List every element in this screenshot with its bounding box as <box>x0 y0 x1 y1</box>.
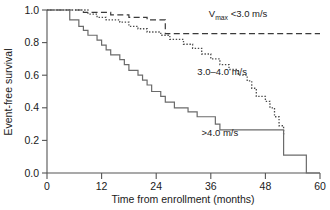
y-tick-label: 1.0 <box>24 4 39 16</box>
series-label-1: 3.0–4.0 m/s <box>197 66 247 77</box>
x-tick-label: 36 <box>205 180 217 192</box>
y-tick-label: 0.8 <box>24 36 39 48</box>
y-tick-label: 0.6 <box>24 69 39 81</box>
y-tick-label: 0.4 <box>24 101 39 113</box>
x-tick-label: 24 <box>150 180 162 192</box>
y-axis-title: Event-free survival <box>2 49 14 136</box>
series-label-0: Vmax <3.0 m/s <box>209 8 268 20</box>
y-tick-label: 0.2 <box>24 134 39 146</box>
series-label-2: >4.0 m/s <box>202 127 239 138</box>
data-series-group <box>47 10 320 173</box>
x-tick-label: 0 <box>44 180 50 192</box>
x-tick-label: 12 <box>96 180 108 192</box>
chart-canvas: 0.00.20.40.60.81.0 01224364860 Vmax <3.0… <box>0 0 330 210</box>
series-line-2 <box>47 10 320 173</box>
series-label-rest: <3.0 m/s <box>228 8 268 19</box>
y-tick-label: 0.0 <box>24 167 39 179</box>
y-axis-ticks: 0.00.20.40.60.81.0 <box>24 4 47 179</box>
x-axis-ticks: 01224364860 <box>44 173 326 192</box>
series-label-subscript: max <box>215 14 228 21</box>
kaplan-meier-figure: 0.00.20.40.60.81.0 01224364860 Vmax <3.0… <box>0 0 330 210</box>
x-tick-label: 48 <box>260 180 272 192</box>
x-tick-label: 60 <box>314 180 326 192</box>
series-annotations: Vmax <3.0 m/s3.0–4.0 m/s>4.0 m/s <box>197 8 267 138</box>
x-axis-title: Time from enrollment (months) <box>111 193 254 205</box>
